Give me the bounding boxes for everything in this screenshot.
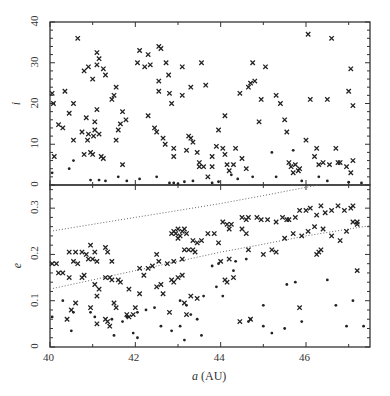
cross-marker: [118, 122, 122, 126]
cross-marker: [124, 118, 128, 122]
cross-marker: [225, 222, 229, 226]
tick-label: 0.3: [28, 192, 40, 222]
cross-marker: [327, 162, 331, 166]
cross-marker: [90, 257, 94, 261]
cross-marker: [159, 282, 163, 286]
cross-marker: [103, 245, 107, 249]
cross-marker: [238, 319, 242, 323]
dot-marker: [93, 316, 96, 319]
cross-marker: [225, 280, 229, 284]
dot-marker: [362, 325, 365, 328]
cross-marker: [97, 56, 101, 60]
dot-marker: [347, 181, 350, 184]
dot-marker: [121, 320, 124, 323]
cross-marker: [164, 61, 168, 65]
cross-marker: [176, 275, 180, 279]
cross-marker: [184, 148, 188, 152]
cross-marker: [110, 97, 114, 101]
cross-marker: [227, 257, 231, 261]
cross-marker: [229, 222, 233, 226]
cross-marker: [225, 162, 229, 166]
dot-marker: [89, 179, 92, 182]
cross-marker: [231, 275, 235, 279]
cross-marker: [248, 81, 252, 85]
cross-marker: [146, 114, 150, 118]
tick-label: 46: [299, 351, 310, 363]
dot-marker: [215, 285, 218, 288]
top-panel: [50, 22, 370, 185]
cross-marker: [199, 61, 203, 65]
cross-marker: [95, 63, 99, 67]
cross-marker: [238, 91, 242, 95]
dot-marker: [72, 159, 75, 162]
cross-marker: [244, 167, 248, 171]
dot-marker: [138, 177, 141, 180]
cross-marker: [314, 252, 318, 256]
dot-marker: [179, 299, 182, 302]
dot-marker: [251, 175, 254, 178]
cross-marker: [161, 136, 165, 140]
cross-marker: [152, 126, 156, 130]
cross-marker: [52, 154, 56, 158]
cross-marker: [110, 278, 114, 282]
dot-marker: [72, 311, 75, 314]
cross-marker: [308, 206, 312, 210]
cross-marker: [334, 146, 338, 150]
cross-marker: [80, 130, 84, 134]
dot-marker: [168, 182, 171, 185]
cross-marker: [263, 65, 267, 69]
cross-marker: [195, 296, 199, 300]
cross-marker: [131, 312, 135, 316]
cross-marker: [61, 126, 65, 130]
cross-marker: [308, 97, 312, 101]
cross-marker: [120, 162, 124, 166]
dot-marker: [247, 320, 250, 323]
cross-marker: [112, 301, 116, 305]
cross-marker: [133, 305, 137, 309]
dot-marker: [117, 175, 120, 178]
dot-marker: [170, 329, 173, 332]
cross-marker: [223, 114, 227, 118]
cross-marker: [54, 261, 58, 265]
cross-marker: [157, 89, 161, 93]
cross-marker: [351, 103, 355, 107]
cross-marker: [63, 89, 67, 93]
cross-marker: [259, 218, 263, 222]
cross-marker: [114, 305, 118, 309]
cross-marker: [329, 208, 333, 212]
cross-marker: [257, 120, 261, 124]
cross-marker: [336, 204, 340, 208]
top-panel-points: [50, 32, 363, 185]
dot-marker: [270, 151, 273, 154]
cross-marker: [176, 236, 180, 240]
tick-label: 42: [128, 351, 139, 363]
dot-marker: [262, 325, 265, 328]
cross-marker: [116, 128, 120, 132]
dot-marker: [132, 332, 135, 335]
dot-marker: [360, 182, 363, 185]
dot-marker: [61, 299, 64, 302]
cross-marker: [157, 79, 161, 83]
cross-marker: [137, 292, 141, 296]
cross-marker: [172, 280, 176, 284]
dot-marker: [211, 265, 214, 268]
cross-marker: [253, 79, 257, 83]
x-axis-title: a (AU): [192, 369, 226, 384]
bottom-panel-points: [50, 204, 365, 342]
cross-marker: [201, 164, 205, 168]
cross-marker: [101, 67, 105, 71]
cross-marker: [67, 250, 71, 254]
cross-marker: [293, 215, 297, 219]
cross-marker: [95, 50, 99, 54]
cross-marker: [93, 128, 97, 132]
cross-marker: [71, 138, 75, 142]
cross-marker: [216, 241, 220, 245]
cross-marker: [227, 227, 231, 231]
cross-marker: [287, 160, 291, 164]
cross-marker: [355, 268, 359, 272]
cross-marker: [85, 138, 89, 142]
cross-marker: [61, 271, 65, 275]
cross-marker: [157, 259, 161, 263]
cross-marker: [304, 138, 308, 142]
dot-marker: [221, 295, 224, 298]
